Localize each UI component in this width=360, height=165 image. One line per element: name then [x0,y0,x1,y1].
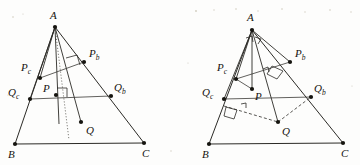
left-cevian-a-through-p [55,27,59,124]
left-point-c [142,141,146,145]
right-dashed-connectors [224,97,311,122]
left-label-b: B [8,148,15,160]
right-point-q [276,120,280,124]
right-cevian-a-pc [236,30,252,79]
left-diagram: A B C Pb Pc Qb Qc P Q [8,9,150,160]
scan-noise [7,8,352,152]
right-label-qc: Qc [202,86,214,101]
right-diagram: A B C Pb Pc Qb Qc P Q [202,11,349,160]
right-point-a [250,28,254,32]
right-cevian-a-q [252,30,278,122]
right-right-angle-pb [267,66,283,79]
right-label-q: Q [282,125,290,137]
right-segment-pc-p [236,79,252,89]
right-side-ab [209,30,252,144]
left-cevians [30,27,81,140]
right-label-c: C [341,147,349,159]
left-point-qb [109,94,113,98]
figure-canvas: A B C Pb Pc Qb Qc P Q [0,0,360,165]
left-point-pc [38,76,42,80]
right-label-p: P [254,90,262,102]
left-chord-qc-qb [30,96,111,99]
left-cevian-a-pc [40,27,55,78]
left-point-pb [82,60,86,64]
left-point-a [53,25,57,29]
left-point-p [54,93,58,97]
left-cevian-a-q [55,27,81,122]
left-vertex-dots [13,25,146,146]
left-point-b [13,142,17,146]
right-right-angle-qc [224,107,237,119]
right-point-b [207,142,211,146]
right-cevian-a-pb [252,30,290,62]
left-label-qc: Qc [8,86,20,101]
right-point-qc [222,97,226,101]
right-point-p [250,87,254,91]
left-label-p: P [42,82,50,94]
left-chord-pc-pb [40,62,84,78]
right-label-pc: Pc [216,61,228,76]
left-side-bc [15,143,144,144]
right-point-c [341,141,345,145]
left-label-c: C [142,147,150,159]
left-side-ac [55,27,144,143]
right-point-pc [234,77,238,81]
left-label-pb: Pb [88,47,100,62]
left-point-q [79,120,83,124]
geometry-figure: A B C Pb Pc Qb Qc P Q [0,0,360,165]
right-dash-q-qb [278,97,311,122]
left-right-angle-lower [57,88,67,97]
left-point-qc [28,97,32,101]
right-point-pb [288,60,292,64]
right-side-bc [209,143,343,144]
right-angle-tick-qc [241,103,246,108]
right-label-qb: Qb [314,82,326,97]
right-label-pb: Pb [294,47,306,62]
right-label-a: A [246,11,254,23]
left-label-qb: Qb [114,81,126,96]
left-label-q: Q [86,124,94,136]
right-cevians [224,30,290,122]
right-point-qb [309,95,313,99]
right-cevian-a-qc [224,30,252,99]
right-label-b: B [202,148,209,160]
left-label-pc: Pc [20,61,32,76]
left-label-a: A [49,9,57,21]
right-chord-qc-qb [224,97,311,99]
